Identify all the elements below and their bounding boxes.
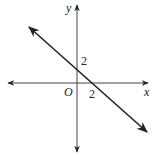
y-axis-label: y <box>66 2 71 14</box>
y-intercept-label: 2 <box>81 55 87 67</box>
x-intercept-label: 2 <box>89 88 95 100</box>
graph-line <box>29 27 147 132</box>
x-axis-label: x <box>144 86 149 98</box>
diagram-graphic <box>0 0 155 155</box>
coordinate-diagram: y x O 2 2 <box>0 0 155 155</box>
origin-label: O <box>64 86 73 98</box>
